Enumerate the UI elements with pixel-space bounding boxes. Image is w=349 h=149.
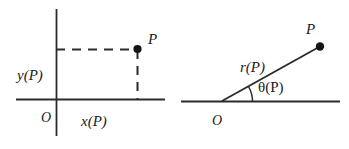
polar-panel: P r(P) θ(P) O bbox=[181, 21, 340, 128]
polar-radius-label: r(P) bbox=[240, 59, 265, 76]
polar-angle-label: θ(P) bbox=[258, 79, 284, 96]
polar-point-p-label: P bbox=[305, 21, 315, 37]
polar-angle-arc bbox=[249, 87, 253, 102]
cartesian-point-p-marker bbox=[133, 45, 141, 53]
polar-origin-label: O bbox=[212, 113, 222, 128]
cartesian-x-axis-label: x(P) bbox=[80, 113, 107, 130]
cartesian-point-p-label: P bbox=[147, 31, 157, 47]
figure-canvas: P y(P) x(P) O P r(P) θ(P) O bbox=[0, 0, 349, 149]
cartesian-panel: P y(P) x(P) O bbox=[15, 9, 165, 136]
polar-point-p-marker bbox=[316, 42, 324, 50]
coordinate-systems-figure: P y(P) x(P) O P r(P) θ(P) O bbox=[0, 0, 349, 149]
cartesian-y-axis-label: y(P) bbox=[15, 67, 43, 84]
cartesian-origin-label: O bbox=[41, 110, 51, 125]
